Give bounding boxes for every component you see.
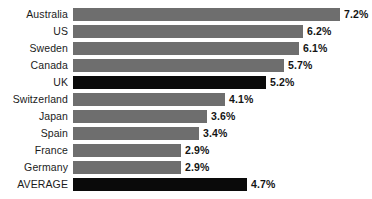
- bar-value-label: 3.4%: [203, 127, 227, 140]
- category-label: Canada: [0, 59, 68, 72]
- bar-track: [73, 144, 181, 157]
- bar-row: Switzerland4.1%: [0, 93, 372, 106]
- bar-track: [73, 110, 207, 123]
- bar-track: [73, 59, 284, 72]
- bar-row: Germany2.9%: [0, 161, 372, 174]
- bar-chart: Australia7.2%US6.2%Sweden6.1%Canada5.7%U…: [0, 0, 372, 199]
- bar: [73, 127, 199, 140]
- bar: [73, 161, 181, 174]
- bar: [73, 93, 225, 106]
- bar-row: Australia7.2%: [0, 8, 372, 21]
- category-label: Germany: [0, 161, 68, 174]
- bar-value-label: 7.2%: [344, 8, 368, 21]
- bar-value-label: 5.2%: [270, 76, 294, 89]
- bar-value-label: 5.7%: [288, 59, 312, 72]
- bar-track: [73, 178, 247, 191]
- category-label: Japan: [0, 110, 68, 123]
- category-label: Sweden: [0, 42, 68, 55]
- bar-track: [73, 127, 199, 140]
- bar-row: France2.9%: [0, 144, 372, 157]
- bar-value-label: 2.9%: [185, 144, 209, 157]
- bar-track: [73, 76, 266, 89]
- bar: [73, 144, 181, 157]
- bar-row: Spain3.4%: [0, 127, 372, 140]
- bar-value-label: 4.7%: [251, 178, 275, 191]
- category-label: Spain: [0, 127, 68, 140]
- bar-row: Canada5.7%: [0, 59, 372, 72]
- bar-track: [73, 8, 340, 21]
- category-label: France: [0, 144, 68, 157]
- category-label: US: [0, 25, 68, 38]
- bar-row: Japan3.6%: [0, 110, 372, 123]
- category-label: Switzerland: [0, 93, 68, 106]
- bar-row: US6.2%: [0, 25, 372, 38]
- bar-value-label: 6.1%: [303, 42, 327, 55]
- bar: [73, 178, 247, 191]
- bar: [73, 8, 340, 21]
- bar-value-label: 6.2%: [307, 25, 331, 38]
- bar-track: [73, 93, 225, 106]
- bar: [73, 42, 299, 55]
- bar-value-label: 3.6%: [211, 110, 235, 123]
- bar-row: AVERAGE4.7%: [0, 178, 372, 191]
- bar-track: [73, 161, 181, 174]
- bar: [73, 25, 303, 38]
- bar-row: UK5.2%: [0, 76, 372, 89]
- bar-track: [73, 25, 303, 38]
- bar: [73, 76, 266, 89]
- bar-value-label: 4.1%: [229, 93, 253, 106]
- category-label: Australia: [0, 8, 68, 21]
- bar: [73, 59, 284, 72]
- bar-row: Sweden6.1%: [0, 42, 372, 55]
- category-label: AVERAGE: [0, 178, 68, 191]
- bar-track: [73, 42, 299, 55]
- bar: [73, 110, 207, 123]
- category-label: UK: [0, 76, 68, 89]
- bar-value-label: 2.9%: [185, 161, 209, 174]
